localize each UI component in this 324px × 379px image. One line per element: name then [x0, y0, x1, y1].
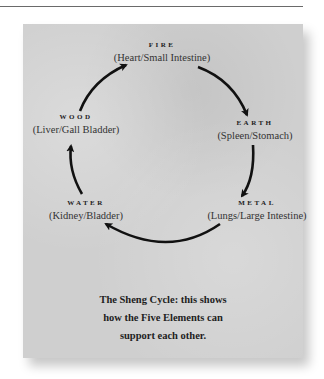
element-name: EARTH — [200, 119, 310, 127]
element-name: FIRE — [100, 41, 224, 49]
arrow-wood-to-fire — [80, 65, 126, 111]
element-name: WATER — [44, 199, 128, 207]
arrow-earth-to-metal — [242, 145, 253, 196]
arrow-water-to-wood — [70, 146, 82, 194]
diagram-caption: The Sheng Cycle: this shows how the Five… — [23, 291, 303, 345]
element-wood: WOOD (Liver/Gall Bladder) — [26, 113, 126, 135]
caption-line-3: support each other. — [23, 327, 303, 345]
arrow-fire-to-earth — [198, 67, 247, 115]
element-organs: (Lungs/Large Intestine) — [190, 210, 324, 221]
element-organs: (Heart/Small Intestine) — [100, 52, 224, 63]
element-metal: METAL (Lungs/Large Intestine) — [190, 199, 324, 221]
element-name: METAL — [190, 199, 324, 207]
element-water: WATER (Kidney/Bladder) — [44, 199, 128, 221]
arrow-metal-to-water — [106, 224, 220, 242]
element-organs: (Spleen/Stomach) — [200, 130, 310, 141]
caption-line-2: how the Five Elements can — [23, 309, 303, 327]
element-name: WOOD — [26, 113, 126, 121]
element-earth: EARTH (Spleen/Stomach) — [200, 119, 310, 141]
element-organs: (Kidney/Bladder) — [44, 210, 128, 221]
element-fire: FIRE (Heart/Small Intestine) — [100, 41, 224, 63]
element-organs: (Liver/Gall Bladder) — [26, 124, 126, 135]
caption-line-1: The Sheng Cycle: this shows — [23, 291, 303, 309]
